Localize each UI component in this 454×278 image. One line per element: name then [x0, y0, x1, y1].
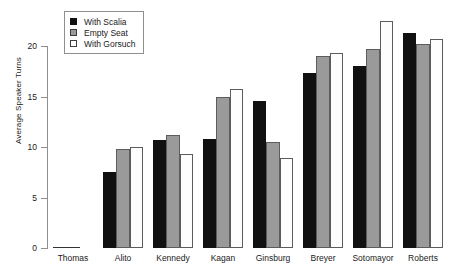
y-axis-tick [41, 46, 48, 47]
bar-group [303, 8, 344, 248]
bar-group [203, 8, 244, 248]
legend-item-label: With Gorsuch [84, 39, 136, 49]
y-axis-tick [41, 147, 48, 148]
bar [366, 49, 380, 248]
bar-chart: Average Speaker Turns 05101520 ThomasAli… [0, 0, 454, 278]
bar [230, 89, 244, 248]
bar [303, 73, 317, 248]
y-axis-tick-label: 10 [13, 142, 37, 152]
x-axis-tick-label-breyer: Breyer [310, 253, 335, 263]
x-axis-tick-label-thomas: Thomas [58, 253, 89, 263]
y-axis-tick-label: 0 [13, 243, 37, 253]
legend-item-label: With Scalia [84, 17, 127, 27]
bar-group [253, 8, 294, 248]
bar [153, 140, 167, 248]
bar [380, 21, 394, 248]
y-axis-tick [41, 248, 48, 249]
x-axis-tick-label-kennedy: Kennedy [156, 253, 190, 263]
x-axis-tick-label-ginsburg: Ginsburg [256, 253, 291, 263]
bar [266, 142, 280, 248]
legend-item: With Gorsuch [70, 38, 136, 49]
y-axis-tick [41, 198, 48, 199]
x-axis-tick-label-kagan: Kagan [211, 253, 236, 263]
x-axis-tick-label-alito: Alito [115, 253, 132, 263]
chart-legend: With ScaliaEmpty SeatWith Gorsuch [64, 11, 144, 54]
legend-item: Empty Seat [70, 27, 136, 38]
bar-group [353, 8, 394, 248]
x-axis-tick-label-sotomayor: Sotomayor [352, 253, 393, 263]
x-axis-tick-label-roberts: Roberts [408, 253, 438, 263]
bar [416, 44, 430, 248]
y-axis-tick-label: 15 [13, 92, 37, 102]
bar [316, 56, 330, 248]
y-axis-tick-label: 5 [13, 193, 37, 203]
bar [403, 33, 417, 248]
bar [353, 66, 367, 248]
legend-item-label: Empty Seat [84, 28, 128, 38]
bar [103, 172, 117, 248]
bar [66, 247, 80, 248]
filled-gray-square-icon [70, 29, 77, 36]
bar [280, 158, 294, 248]
bar [203, 139, 217, 248]
y-axis-tick-labels: 05101520 [9, 0, 37, 278]
bar [130, 147, 144, 248]
open-white-square-icon [70, 40, 77, 47]
bar [53, 247, 67, 248]
bar [330, 53, 344, 248]
bar [430, 39, 444, 248]
bar-group [153, 8, 194, 248]
bar [166, 135, 180, 248]
x-axis-tick-labels: ThomasAlitoKennedyKaganGinsburgBreyerSot… [48, 253, 448, 275]
y-axis-tick-label: 20 [13, 41, 37, 51]
filled-black-square-icon [70, 18, 77, 25]
bar [116, 149, 130, 248]
y-axis-tick [41, 97, 48, 98]
bar-group [403, 8, 444, 248]
bar [216, 97, 230, 249]
bar [253, 101, 267, 248]
legend-item: With Scalia [70, 16, 136, 27]
bar [180, 154, 194, 248]
